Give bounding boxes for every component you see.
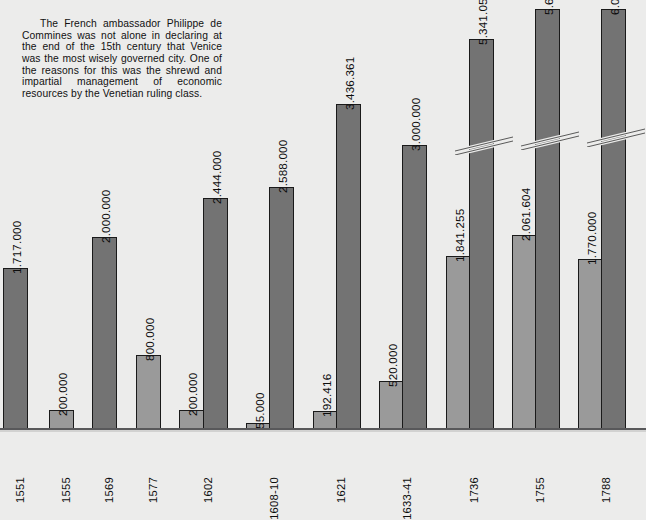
bar-1788-light	[578, 259, 603, 429]
xlabel-1633-41: 1633-41	[401, 477, 413, 520]
bar-1621-dark-value-label: 3.436.361	[343, 57, 356, 110]
bar-1755-light	[512, 235, 537, 429]
bar-1569-dark-value-label: 2.000.000	[99, 190, 112, 243]
bar-1608-light-value-label: 55.000	[253, 392, 266, 429]
plot-area: 1.717.000200.0002.000.000800.000200.0002…	[0, 0, 646, 429]
xlabel-1602: 1602	[202, 477, 214, 503]
bar-1602-light-value-label: 200.000	[186, 373, 199, 416]
bar-1633-light-value-label: 520.000	[386, 344, 399, 387]
bar-1755-dark	[535, 9, 560, 429]
bar-1608-dark	[269, 187, 294, 429]
bar-1569-dark	[92, 237, 117, 429]
bar-1577-light	[136, 355, 161, 429]
bar-1551-dark-value-label: 1.717.000	[10, 221, 23, 274]
bar-1633-dark-value-label: 3.000.000	[409, 98, 422, 151]
bar-1788-dark	[601, 9, 626, 429]
xlabel-1736: 1736	[468, 477, 480, 503]
bar-1736-light-value-label: 1.841.255	[453, 209, 466, 262]
xlabel-1577: 1577	[147, 477, 159, 503]
xlabel-1788: 1788	[600, 477, 612, 503]
bar-1602-dark	[203, 198, 228, 429]
x-axis-labels: 155115551569157716021608-1016211633-4117…	[0, 429, 646, 480]
xlabel-1569: 1569	[103, 477, 115, 503]
bar-1736-dark-value-label: 5.341.059	[476, 0, 489, 45]
bar-1551-dark	[3, 268, 28, 429]
bar-1736-light	[446, 256, 471, 429]
bar-1621-light-value-label: 192.416	[320, 374, 333, 417]
bar-1736-dark	[469, 39, 494, 429]
bar-1788-dark-value-label: 6.000.000	[608, 0, 621, 15]
xlabel-1555: 1555	[60, 477, 72, 503]
bar-1577-light-value-label: 800.000	[143, 318, 156, 361]
bar-1608-dark-value-label: 2.588.000	[276, 140, 289, 193]
bar-1788-light-value-label: 1.770.000	[585, 212, 598, 265]
xlabel-1608-10: 1608-10	[268, 477, 280, 520]
xlabel-1621: 1621	[335, 477, 347, 503]
xlabel-1551: 1551	[14, 477, 26, 503]
bar-1755-dark-value-label: 5.602.095	[542, 0, 555, 15]
xlabel-1755: 1755	[534, 477, 546, 503]
bar-1621-dark	[336, 104, 361, 429]
bar-1602-dark-value-label: 2.444.000	[210, 151, 223, 204]
bar-1633-dark	[402, 145, 427, 429]
bar-1755-light-value-label: 2.061.604	[519, 188, 532, 241]
bar-1555-light-value-label: 200.000	[56, 373, 69, 416]
bar-1633-light	[379, 381, 404, 429]
